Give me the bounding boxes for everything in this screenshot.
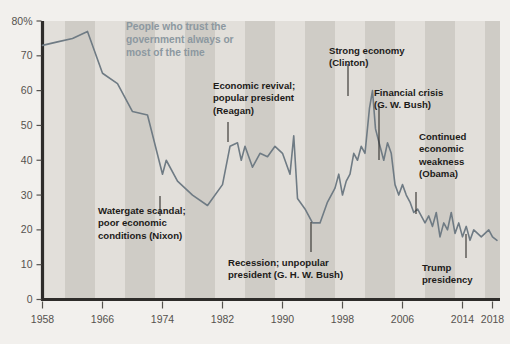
presidential-term-band: [485, 21, 500, 300]
y-tick-label: 40: [21, 154, 33, 166]
y-tick-label: 60: [21, 84, 33, 96]
trust-in-government-line-chart: 01020304050607080% 195819661974198219901…: [0, 0, 510, 344]
presidential-term-band: [43, 21, 66, 300]
presidential-term-band: [185, 21, 215, 300]
x-tick-label: 1958: [31, 313, 55, 325]
x-tick-label: 2006: [391, 313, 415, 325]
x-tick-label: 1966: [91, 313, 115, 325]
x-tick-label: 2014: [451, 313, 475, 325]
chart-page: 01020304050607080% 195819661974198219901…: [0, 0, 510, 344]
x-tick-label: 2018: [481, 313, 505, 325]
y-tick-label: 30: [21, 189, 33, 201]
y-tick-label: 10: [21, 258, 33, 270]
y-axis-ticks: 01020304050607080%: [11, 15, 41, 306]
presidential-term-band: [65, 21, 95, 300]
x-tick-label: 1974: [151, 313, 175, 325]
y-tick-label: 80%: [11, 15, 32, 27]
presidential-term-band: [125, 21, 155, 300]
x-tick-label: 1998: [331, 313, 355, 325]
y-tick-label: 50: [21, 119, 33, 131]
x-tick-label: 1982: [211, 313, 235, 325]
y-tick-label: 20: [21, 223, 33, 235]
y-tick-label: 70: [21, 49, 33, 61]
x-axis-ticks: 195819661974198219901998200620142018: [31, 302, 505, 325]
annotation-ghw-bush: Recession; unpopularpresident (G. H. W. …: [228, 257, 343, 280]
y-tick-label: 0: [27, 293, 33, 305]
presidential-term-band: [365, 21, 395, 300]
x-tick-label: 1990: [271, 313, 295, 325]
